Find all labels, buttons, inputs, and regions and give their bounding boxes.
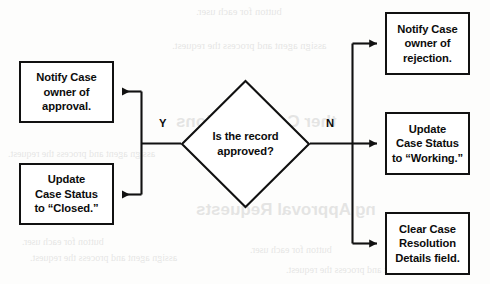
flowchart-figure: button for each user. assign agent and p… <box>0 0 490 284</box>
process-node-status-closed-label: Update Case Status to “Closed.” <box>30 172 102 216</box>
clear-resolution-line1: Clear Case <box>399 223 456 235</box>
clear-resolution-line2: Resolution <box>399 237 456 249</box>
notify-approval-line1: Notify Case <box>36 71 96 83</box>
decision-node-record-approved[interactable]: Is the record approved? <box>180 79 311 209</box>
status-working-line1: Update <box>409 123 446 135</box>
process-node-status-closed[interactable]: Update Case Status to “Closed.” <box>19 163 114 225</box>
status-closed-line1: Update <box>48 173 85 185</box>
decision-label: Is the record approved? <box>196 129 296 158</box>
decision-label-line2: approved? <box>217 145 273 157</box>
process-node-clear-resolution-label: Clear Case Resolution Details field. <box>391 222 464 266</box>
branch-label-no: N <box>326 118 334 129</box>
clear-resolution-line3: Details field. <box>395 252 460 264</box>
decision-label-line1: Is the record <box>213 130 279 142</box>
process-node-status-working[interactable]: Update Case Status to “Working.” <box>385 112 470 175</box>
notify-rejection-line3: rejection. <box>403 52 452 64</box>
notify-rejection-line2: owner of <box>405 37 451 49</box>
notify-approval-line3: approval. <box>42 100 91 112</box>
notify-approval-line2: owner of <box>44 86 90 98</box>
process-node-status-working-label: Update Case Status to “Working.” <box>388 122 467 166</box>
process-node-notify-approval[interactable]: Notify Case owner of approval. <box>19 61 114 123</box>
process-node-notify-rejection-label: Notify Case owner of rejection. <box>393 22 461 66</box>
notify-rejection-line1: Notify Case <box>397 23 457 35</box>
process-node-clear-resolution[interactable]: Clear Case Resolution Details field. <box>385 212 470 275</box>
status-working-line2: Case Status <box>396 137 459 149</box>
process-node-notify-approval-label: Notify Case owner of approval. <box>32 70 100 114</box>
status-closed-line2: Case Status <box>35 188 98 200</box>
branch-label-yes: Y <box>159 118 166 129</box>
status-closed-line3: to “Closed.” <box>34 202 98 214</box>
status-working-line3: to “Working.” <box>392 152 463 164</box>
process-node-notify-rejection[interactable]: Notify Case owner of rejection. <box>385 12 470 75</box>
